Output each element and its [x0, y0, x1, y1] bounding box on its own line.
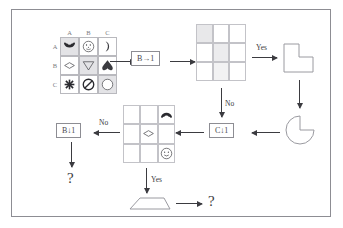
arrow-l-shape-to-pie [296, 80, 303, 108]
shape-matrix: A B C A [50, 28, 117, 94]
rule-b-right-1-box[interactable]: B→1 [131, 51, 160, 66]
matrix-row-header-a: A [50, 37, 60, 56]
matrix-row-header-b: B [50, 56, 60, 75]
arrow-rule-b1-to-unknown-left [68, 142, 75, 167]
matrix-cell-a-c [98, 37, 117, 56]
shape-grid-cell-0-0 [123, 105, 140, 124]
diamond-outline-icon [62, 58, 77, 73]
matrix-col-header-c: C [98, 28, 117, 37]
matrix-cell-a-b [79, 37, 98, 56]
matrix-row-c: C [50, 75, 117, 94]
diagram-canvas: A B C A [0, 0, 343, 228]
shaded-grid-cell-1-0 [196, 43, 213, 62]
pac-man-pie-shape [284, 114, 316, 146]
crescent-moon-icon [100, 39, 115, 54]
matrix-cell-b-a [60, 56, 79, 75]
shape-grid-cell-2-0 [123, 144, 140, 163]
shaded-grid-cell-2-0 [196, 62, 213, 81]
shaded-grid-cell-0-2 [229, 24, 246, 43]
shape-grid-cell-1-1 [140, 124, 157, 143]
unknown-output-bottom: ? [208, 194, 215, 209]
arrow-rule-c1-to-shape-grid [176, 129, 204, 136]
edge-label-yes-top: Yes [256, 43, 267, 52]
rule-b-down-1-box[interactable]: B↓1 [56, 123, 81, 138]
arrow-rule-b1-to-shaded-grid [170, 58, 195, 65]
arrow-pie-to-rule-c1 [252, 129, 280, 136]
arrow-no-to-rule-c1 [218, 88, 225, 117]
shaded-grid-cell-0-1 [213, 24, 230, 43]
matrix-column-headers: A B C [60, 28, 117, 37]
arrow-yes-to-trapezoid [143, 168, 150, 193]
matrix-col-header-b: B [79, 28, 98, 37]
shape-grid-cell-0-2 [158, 105, 175, 124]
edge-label-no-mid: No [225, 99, 234, 108]
arrow-trapezoid-to-unknown-bottom [176, 200, 202, 207]
asterisk-star-icon [62, 77, 77, 92]
shape-grid-cell-2-2 [158, 144, 175, 163]
arrow-yes-to-l-shape [252, 54, 277, 61]
arc-cap-icon [159, 107, 174, 122]
unknown-output-left: ? [67, 171, 74, 186]
edge-label-yes-bottom: Yes [151, 175, 162, 184]
matrix-row-a: A [50, 37, 117, 56]
shaded-grid-cell-1-2 [229, 43, 246, 62]
shape-grid-cell-1-0 [123, 124, 140, 143]
prohibition-sign-icon [81, 77, 96, 92]
matrix-cell-c-a [60, 75, 79, 94]
down-triangle-outline-icon [81, 58, 96, 73]
trapezoid-shape [128, 195, 172, 211]
circle-outline-icon [100, 77, 115, 92]
l-shaped-polygon [282, 42, 316, 74]
shape-grid-cell-2-1 [140, 144, 157, 163]
matrix-row-header-c: C [50, 75, 60, 94]
dotted-face-circle-icon [81, 39, 96, 54]
shaded-grid-cell-1-1 [213, 43, 230, 62]
matrix-cell-b-b [79, 56, 98, 75]
shaded-grid [196, 24, 246, 81]
arrow-no-to-rule-b1 [94, 129, 120, 136]
shaded-grid-cell-2-1 [213, 62, 230, 81]
matrix-cell-a-a [60, 37, 79, 56]
shape-grid-cell-0-1 [140, 105, 157, 124]
shaded-grid-cell-2-2 [229, 62, 246, 81]
rule-c-down-1-box[interactable]: C↓1 [209, 123, 234, 138]
shape-grid-cell-1-2 [158, 124, 175, 143]
matrix-cell-c-c [98, 75, 117, 94]
matrix-col-header-a: A [60, 28, 79, 37]
matrix-cell-c-b [79, 75, 98, 94]
shaded-grid-cell-0-0 [196, 24, 213, 43]
diamond-outline-icon [141, 126, 156, 141]
matrix-row-b: B [50, 56, 117, 75]
filled-arc-bowl-icon [62, 39, 77, 54]
shape-grid [123, 105, 175, 163]
diagram-frame: A B C A [11, 9, 331, 217]
smiley-face-icon [159, 146, 174, 161]
edge-label-no-left: No [99, 118, 108, 127]
